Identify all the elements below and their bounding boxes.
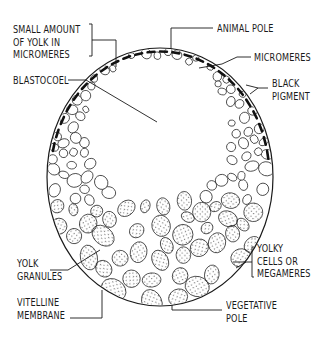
yolky-cell	[138, 286, 166, 318]
yolky-cell	[220, 191, 241, 209]
label-blastocoel: BLASTOCOEL	[13, 74, 69, 87]
pigment-dash	[185, 55, 192, 57]
yolky-cell	[139, 199, 152, 214]
micromere-cell	[83, 193, 96, 207]
label-animal-pole: ANIMAL POLE	[217, 22, 274, 35]
yolky-cell	[199, 220, 215, 236]
micromere-cell	[237, 178, 249, 191]
yolky-cell	[176, 247, 191, 264]
pigment-dash	[53, 143, 55, 151]
yolky-cell	[206, 231, 228, 255]
yolky-cell	[127, 221, 147, 241]
yolky-cell	[142, 272, 162, 288]
pigment-dash	[172, 52, 179, 53]
yolky-cell	[128, 240, 149, 264]
yolky-cell	[114, 197, 138, 220]
label-vitelline-membrane: VITELLINE MEMBRANE	[17, 296, 65, 321]
yolky-cell	[150, 213, 173, 238]
pigment-dash	[123, 56, 130, 58]
leader-vitelline-membrane	[70, 290, 102, 318]
leader-animal-pole	[171, 28, 213, 48]
micromere-cell	[82, 105, 90, 114]
micromere-cell	[67, 161, 77, 169]
micromere-cell	[79, 147, 89, 158]
pigment-dash	[148, 52, 155, 53]
pigment-dash	[246, 100, 250, 106]
label-micromeres: MICROMERES	[254, 51, 311, 64]
micromere-cell	[82, 156, 98, 171]
yolky-cell	[176, 191, 192, 211]
leader-micromeres	[199, 57, 251, 68]
yolky-cell	[65, 227, 82, 244]
micromere-cell	[225, 154, 238, 167]
micromere-cell	[68, 147, 79, 158]
label-yolk-granules: YOLK GRANULES	[17, 257, 62, 282]
micromere-cell	[225, 95, 236, 108]
micromere-cell	[237, 171, 245, 180]
pigment-dash	[229, 80, 234, 85]
pigment-dash	[135, 53, 142, 55]
pigment-dash	[267, 151, 268, 159]
blastula-diagram: SMALL AMOUNT OF YOLK IN MICROMERES BLAST…	[0, 0, 330, 337]
micromere-cell	[244, 159, 260, 173]
micromere-cell	[225, 141, 237, 154]
micromere-cell	[240, 150, 253, 163]
label-small-amount-of-yolk: SMALL AMOUNT OF YOLK IN MICROMERES	[13, 23, 80, 61]
micromere-cell	[79, 184, 90, 194]
label-yolky-cells-or-megameres: YOLKY CELLS OR MEGAMERES	[257, 242, 311, 280]
micromere-cell	[58, 148, 69, 160]
leader-black-pigment	[246, 85, 268, 94]
pigment-dash	[112, 61, 118, 64]
label-vegetative-pole: VEGETATIVE POLE	[226, 299, 277, 324]
micromere-cell	[237, 136, 251, 151]
leader-vegetative-pole	[172, 305, 222, 310]
micromere-cell	[255, 181, 271, 197]
label-black-pigment: BLACK PIGMENT	[272, 77, 310, 102]
yolky-cell	[216, 208, 240, 230]
micromere-cell	[230, 128, 241, 140]
pigment-dash	[82, 84, 87, 89]
micromere-cell	[69, 192, 82, 205]
yolky-cell	[155, 197, 171, 217]
yolky-cell	[68, 203, 78, 216]
micromere-cell	[228, 119, 236, 127]
micromere-cell	[217, 87, 227, 95]
yolky-cell	[111, 250, 128, 267]
micromere-cell	[215, 81, 221, 87]
yolky-cell	[243, 202, 264, 222]
micromere-cell	[47, 182, 63, 199]
yolky-cell	[192, 202, 211, 222]
